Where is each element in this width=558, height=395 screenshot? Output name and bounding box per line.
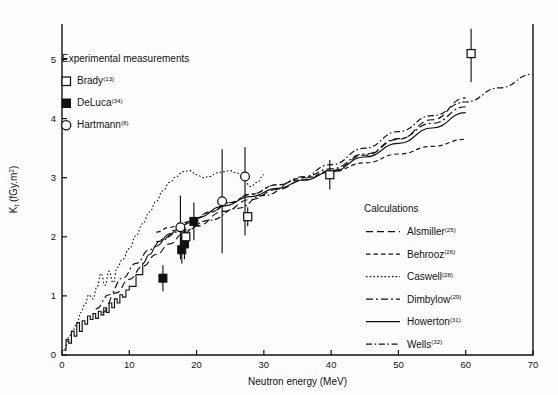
experimental-legend-heading: Experimental measurements	[62, 53, 189, 64]
x-tick-label: 10	[124, 359, 135, 370]
y-tick-label: 5	[51, 54, 56, 65]
x-tick-label: 40	[326, 359, 337, 370]
point-marker-deluca	[159, 274, 167, 282]
point-marker-hartmann	[241, 172, 250, 181]
x-tick-label: 30	[259, 359, 270, 370]
x-axis-title: Neutron energy (MeV)	[248, 376, 347, 387]
x-tick-label: 60	[460, 359, 471, 370]
legend-label-wells: Wells(32)	[407, 338, 442, 349]
calculations-legend-heading: Calculations	[364, 203, 418, 214]
y-tick-label: 2	[51, 231, 56, 242]
chart-figure: 010203040506070012345Neutron energy (MeV…	[0, 0, 558, 395]
y-axis-title: Kt (fGy.m2)	[8, 166, 20, 214]
curve-howerton	[63, 113, 465, 351]
legend-label-behrooz: Behrooz(26)	[407, 248, 455, 259]
curves-group	[63, 74, 533, 350]
calculations-legend: CalculationsAlsmiller(25)Behrooz(26)Casw…	[364, 203, 461, 350]
x-tick-label: 0	[59, 359, 64, 370]
point-marker-brady	[326, 171, 334, 179]
legend-marker-filled-square-icon	[62, 99, 71, 108]
curve-behrooz	[156, 139, 466, 232]
experimental-legend: Experimental measurementsBrady(13)DeLuca…	[62, 53, 190, 130]
point-marker-brady	[182, 233, 190, 241]
legend-marker-open-circle-icon	[62, 121, 71, 130]
point-marker-deluca	[190, 217, 198, 225]
legend-label-brady: Brady(13)	[77, 75, 114, 86]
y-tick-label: 3	[51, 172, 56, 183]
legend-marker-open-square-icon	[62, 77, 71, 86]
x-tick-label: 20	[191, 359, 202, 370]
legend-label-dimbylow: Dimbylow(29)	[407, 293, 461, 304]
y-tick-label: 0	[51, 349, 56, 360]
legend-label-hartmann: Hartmann(8)	[77, 119, 128, 130]
legend-label-howerton: Howerton(31)	[407, 316, 461, 327]
point-marker-brady	[467, 50, 475, 58]
point-marker-brady	[244, 213, 252, 221]
legend-label-caswell: Caswell(28)	[407, 271, 453, 282]
curve-caswell	[65, 171, 264, 350]
legend-label-deluca: DeLuca(34)	[77, 97, 122, 108]
chart-canvas: 010203040506070012345Neutron energy (MeV…	[0, 0, 558, 395]
x-tick-label: 50	[393, 359, 404, 370]
legend-label-alsmiller: Alsmiller(25)	[407, 226, 456, 237]
y-tick-label: 1	[51, 290, 56, 301]
x-tick-label: 70	[528, 359, 539, 370]
plot-frame	[62, 24, 533, 355]
y-tick-label: 4	[51, 113, 56, 124]
point-marker-hartmann	[218, 197, 227, 206]
point-marker-hartmann	[176, 223, 185, 232]
